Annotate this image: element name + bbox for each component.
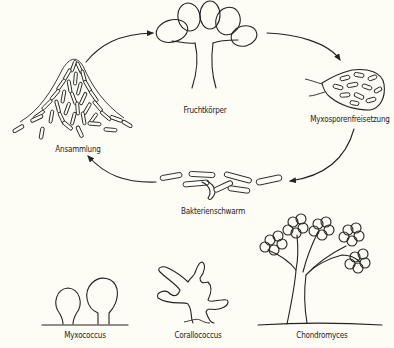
label-bakterienschwarm: Bakterienschwarm [181,207,245,216]
fruchtkoerper-icon [154,1,259,88]
myxobacteria-life-cycle-diagram: Fruchtkörper Myxosporenfreisetzung Bakte… [0,0,394,348]
chondromyces-icon [258,214,382,325]
label-myxococcus: Myxococcus [64,331,105,340]
label-myxosporenfreisetzung: Myxosporenfreisetzung [310,115,389,124]
myxococcus-icon [42,278,128,325]
arrow-ansammlung-to-fruchtkoerper [86,33,153,62]
ansammlung-icon [12,59,132,139]
diagram-drawing [0,0,394,348]
label-corallococcus: Corallococcus [174,331,221,340]
label-ansammlung: Ansammlung [55,145,100,154]
arrow-fruchtkoerper-to-myxosporen [267,33,340,60]
label-fruchtkoerper: Fruchtkörper [183,106,226,115]
arrow-myxosporen-to-bakterienschwarm [290,129,354,181]
label-chondromyces: Chondromyces [296,331,347,340]
arrow-bakterienschwarm-to-ansammlung [88,156,156,182]
myxosporenfreisetzung-icon [305,70,384,110]
bakterienschwarm-icon [160,171,283,199]
corallococcus-icon [157,262,228,323]
